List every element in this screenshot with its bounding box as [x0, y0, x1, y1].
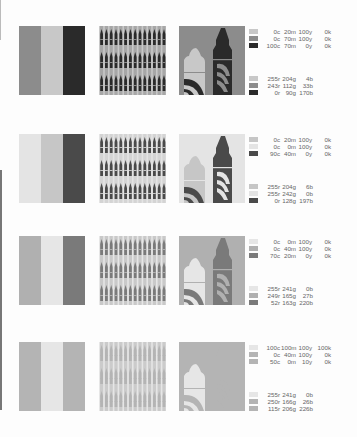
green-value: 204g: [281, 75, 296, 82]
color-swatch: [249, 406, 258, 411]
black-value: 100k: [313, 344, 331, 351]
color-swatch: [249, 151, 258, 156]
cyan-value: 50c: [259, 358, 280, 365]
cmyk-entry: 0c 20m 100y 0k: [249, 28, 357, 35]
red-value: 255r: [259, 285, 280, 292]
cmyk-entry: 0c 20m 100y 0k: [249, 136, 357, 143]
magenta-value: 40m: [281, 245, 296, 252]
cmyk-legend: 100c 100m 100y 100k 0c 40m 100y 0k 50c 0…: [249, 344, 357, 365]
green-value: 204g: [281, 183, 296, 190]
cmyk-entry: 0c 0m 100y 0k: [249, 238, 357, 245]
color-swatch: [249, 286, 258, 291]
color-stripe: [41, 236, 63, 305]
blue-value: 33b: [297, 82, 313, 89]
color-swatch: [249, 36, 258, 41]
blue-value: 27b: [297, 292, 313, 299]
cyan-value: 0c: [259, 35, 280, 42]
black-value: 0k: [313, 42, 331, 49]
color-stripe: [41, 134, 63, 203]
cyan-value: 0c: [259, 245, 280, 252]
color-row: 100c 100m 100y 100k 0c 40m 100y 0k 50c 0…: [0, 342, 357, 414]
color-swatch: [249, 352, 258, 357]
crayon-pattern-panel: [99, 26, 166, 95]
green-value: 165g: [281, 292, 296, 299]
color-swatch: [249, 246, 258, 251]
green-value: 112g: [281, 82, 296, 89]
color-swatch: [249, 198, 258, 203]
red-value: 115r: [259, 405, 280, 412]
magenta-value: 20m: [281, 136, 296, 143]
rgb-entry: 243r 112g 33b: [249, 82, 357, 89]
black-value: 0k: [313, 150, 331, 157]
green-value: 241g: [281, 391, 296, 398]
cmyk-legend: 0c 0m 100y 0k 0c 40m 100y 0k 70c 20m 0y …: [249, 238, 357, 259]
green-value: 242g: [281, 190, 296, 197]
crayon-pattern-panel: [99, 236, 166, 305]
stripe-swatch-panel: [19, 236, 85, 305]
cmyk-entry: 100c 100m 100y 100k: [249, 344, 357, 351]
yellow-value: 100y: [297, 351, 312, 358]
rgb-entry: 0r 128g 197b: [249, 197, 357, 204]
red-value: 255r: [259, 391, 280, 398]
blue-value: 0b: [297, 190, 313, 197]
cyan-value: 0c: [259, 351, 280, 358]
magenta-value: 0m: [281, 143, 296, 150]
cmyk-entry: 90c 40m 0y 0k: [249, 150, 357, 157]
cmyk-entry: 100c 70m 0y 0k: [249, 42, 357, 49]
yellow-value: 100y: [297, 136, 312, 143]
cyan-value: 0c: [259, 143, 280, 150]
color-stripe: [63, 26, 85, 95]
cmyk-entry: 50c 0m 10y 0k: [249, 358, 357, 365]
red-value: 255r: [259, 75, 280, 82]
red-value: 243r: [259, 82, 280, 89]
color-stripe: [63, 342, 85, 411]
black-value: 0k: [313, 143, 331, 150]
green-value: 166g: [281, 398, 296, 405]
black-value: 0k: [313, 28, 331, 35]
crayon-illustration: [179, 134, 245, 203]
black-value: 0k: [313, 136, 331, 143]
black-value: 0k: [313, 252, 331, 259]
green-value: 241g: [281, 285, 296, 292]
red-value: 0r: [259, 89, 280, 96]
cyan-value: 0c: [259, 238, 280, 245]
green-value: 128g: [281, 197, 296, 204]
crayon-illustration: [179, 236, 245, 305]
rgb-entry: 52r 163g 220b: [249, 299, 357, 306]
color-stripe: [19, 134, 41, 203]
rgb-legend: 255r 204g 4b 243r 112g 33b 0r 90g 170b: [249, 75, 357, 96]
rgb-entry: 115r 206g 226b: [249, 405, 357, 412]
magenta-value: 40m: [281, 150, 296, 157]
color-swatch: [249, 29, 258, 34]
blue-value: 197b: [297, 197, 313, 204]
cmyk-entry: 0c 70m 100y 0k: [249, 35, 357, 42]
rgb-entry: 250r 166g 26b: [249, 398, 357, 405]
rgb-entry: 0r 90g 170b: [249, 89, 357, 96]
yellow-value: 100y: [297, 28, 312, 35]
green-value: 90g: [281, 89, 296, 96]
red-value: 250r: [259, 398, 280, 405]
color-swatch: [249, 191, 258, 196]
blue-value: 0b: [297, 391, 313, 398]
blue-value: 4b: [297, 75, 313, 82]
magenta-value: 100m: [281, 344, 296, 351]
yellow-value: 10y: [297, 358, 312, 365]
blue-value: 226b: [297, 405, 313, 412]
yellow-value: 0y: [297, 150, 312, 157]
cyan-value: 0c: [259, 28, 280, 35]
cyan-value: 90c: [259, 150, 280, 157]
crayon-pattern-panel: [99, 134, 166, 203]
color-stripe: [19, 236, 41, 305]
color-stripe: [41, 26, 63, 95]
rgb-entry: 255r 241g 0b: [249, 285, 357, 292]
color-swatch: [249, 300, 258, 305]
yellow-value: 100y: [297, 143, 312, 150]
color-stripe: [19, 26, 41, 95]
stripe-swatch-panel: [19, 26, 85, 95]
magenta-value: 70m: [281, 35, 296, 42]
blue-value: 0b: [297, 285, 313, 292]
crayon-illustration: [179, 342, 245, 411]
blue-value: 220b: [297, 299, 313, 306]
magenta-value: 0m: [281, 358, 296, 365]
blue-value: 26b: [297, 398, 313, 405]
